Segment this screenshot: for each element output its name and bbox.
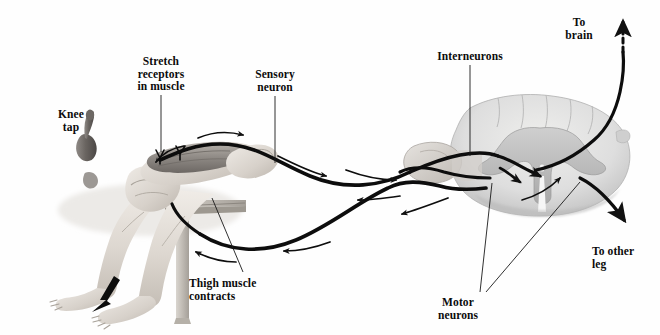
label-interneurons: Interneurons (402, 50, 538, 63)
label-sensory-neuron: Sensory neuron (232, 68, 318, 93)
label-thigh-muscle-contracts: Thigh muscle contracts (189, 277, 301, 302)
label-stretch-receptors: Stretch receptors in muscle (111, 55, 211, 93)
label-to-other-leg: To other leg (592, 245, 658, 270)
reflex-arc-illustration (0, 0, 660, 335)
dorsal-nerve-nub (616, 130, 630, 143)
reflex-arc-figure: Knee tap Stretch receptors in muscle Sen… (0, 0, 660, 335)
label-knee-tap: Knee tap (44, 108, 98, 133)
bench-foot (174, 318, 191, 324)
label-motor-neurons: Motor neurons (410, 296, 506, 321)
label-to-brain: To brain (556, 16, 602, 41)
